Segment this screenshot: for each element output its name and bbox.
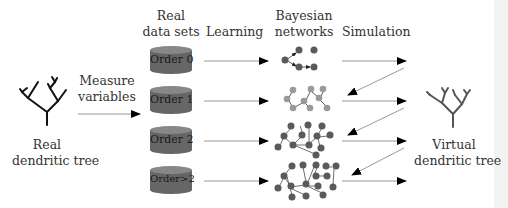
datasets-header-line2: data sets xyxy=(140,24,202,40)
dataset-order2: Order 2 xyxy=(150,133,192,146)
virtual-tree-label: Virtual dendritic tree xyxy=(414,137,494,169)
real-tree-icon xyxy=(20,77,66,125)
real-tree-label: Real dendritic tree xyxy=(12,137,82,169)
bn-header: Bayesian networks xyxy=(272,8,336,40)
virtual-tree-label-line1: Virtual xyxy=(414,137,494,153)
bn-order2-graph xyxy=(275,122,334,159)
dataset-order3: Order>2 xyxy=(150,173,192,184)
real-tree-label-line1: Real xyxy=(12,137,82,153)
measure-label: Measure variables xyxy=(76,73,138,105)
virtual-tree-label-line2: dendritic tree xyxy=(414,153,494,169)
datasets-header-line1: Real xyxy=(140,8,202,24)
datasets-header: Real data sets xyxy=(140,8,202,40)
simulation-label: Simulation xyxy=(342,24,408,40)
measure-label-line2: variables xyxy=(76,89,138,105)
bn-header-line1: Bayesian xyxy=(272,8,336,24)
virtual-tree-icon xyxy=(427,88,470,127)
dataset-cylinders xyxy=(150,46,192,194)
bn-order0-graph xyxy=(282,47,318,71)
bn-order1-graph xyxy=(284,86,331,112)
learning-label: Learning xyxy=(206,24,262,40)
bn-header-line2: networks xyxy=(272,24,336,40)
measure-label-line1: Measure xyxy=(76,73,138,89)
real-tree-label-line2: dendritic tree xyxy=(12,153,82,169)
dataset-order0: Order 0 xyxy=(150,53,192,66)
dataset-order1: Order 1 xyxy=(150,93,192,106)
bn-order3-graph xyxy=(275,162,340,201)
